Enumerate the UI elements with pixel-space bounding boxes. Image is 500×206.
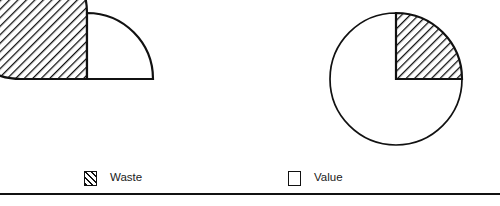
left-pie-slice-value bbox=[87, 13, 153, 79]
right-pie-chart bbox=[330, 13, 462, 145]
legend-label-value: Value bbox=[314, 172, 343, 184]
legend-item-value: Value bbox=[288, 165, 343, 191]
right-pie-slice-waste bbox=[396, 13, 462, 79]
pie-chart-figure: Waste Value bbox=[0, 0, 500, 206]
legend-label-waste: Waste bbox=[110, 172, 142, 184]
left-pie-chart bbox=[0, 0, 153, 79]
bottom-divider bbox=[0, 193, 500, 195]
chart-legend: Waste Value bbox=[0, 165, 500, 191]
legend-item-waste: Waste bbox=[84, 165, 142, 191]
left-pie-slice-waste bbox=[0, 0, 87, 79]
waste-swatch-icon bbox=[84, 171, 97, 186]
value-swatch-icon bbox=[288, 171, 301, 186]
